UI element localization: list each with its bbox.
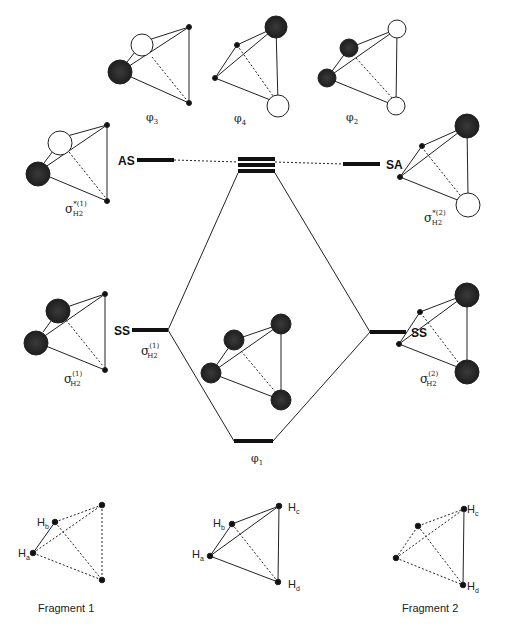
fragment-2-label: Fragment 2	[402, 602, 458, 614]
label-hc: Hc	[288, 501, 300, 515]
level-phi1	[234, 439, 273, 443]
label-sigma-1: σ(1)H2	[64, 370, 82, 388]
label-sigma-star-2: σ*(2)H2	[424, 209, 446, 227]
level-label-as: AS	[118, 154, 135, 168]
level-as	[137, 158, 174, 162]
mo-phi2-diagram	[318, 20, 406, 115]
level-sa	[343, 162, 380, 166]
orbital-correlation-diagram: φ3 φ4 φ2 σ*	[0, 0, 506, 630]
correlation-lines	[168, 173, 370, 441]
fragment-orbital-sigma-star-1	[26, 123, 110, 204]
mo-phi3-diagram	[108, 25, 192, 106]
fragment-orbital-sigma-1	[24, 292, 108, 373]
label-hd: Hd	[288, 578, 300, 592]
mo-phi4-diagram	[213, 16, 290, 117]
fragment-2-geometry	[393, 506, 467, 588]
h4-geometry	[207, 503, 282, 585]
fragment-1-geometry	[30, 502, 105, 583]
fragment-orbital-sigma-2	[397, 283, 480, 384]
filled-lobe	[108, 60, 132, 84]
open-lobe	[131, 34, 153, 56]
level-label-ss-left: SS	[114, 324, 130, 338]
fragment-1-label: Fragment 1	[38, 602, 94, 614]
label-hb: Hb	[213, 517, 225, 531]
label-phi1: φ1	[251, 452, 263, 467]
label-ha-f1: Ha	[18, 547, 30, 561]
label-phi2: φ2	[346, 111, 358, 126]
label-sigma-2: σ(2)H2	[420, 370, 438, 388]
label-hd-f2: Hd	[467, 580, 479, 594]
fragment-orbital-sigma-star-2	[398, 114, 481, 217]
label-hc-f2: Hc	[467, 503, 479, 517]
label-ha: Ha	[192, 548, 204, 562]
label-hb-f1: Hb	[37, 516, 49, 530]
level-degenerate-triple	[238, 157, 275, 173]
level-ss-left	[132, 328, 168, 332]
label-phi4: φ4	[234, 112, 247, 127]
level-label-sa: SA	[386, 158, 403, 172]
mo-phi1-diagram	[201, 314, 291, 410]
label-phi3: φ3	[146, 111, 158, 126]
label-sigma-1-level: σ(1)H2	[141, 342, 159, 360]
label-sigma-star-1: σ*(1)H2	[65, 200, 87, 218]
level-ss-right	[370, 330, 406, 334]
